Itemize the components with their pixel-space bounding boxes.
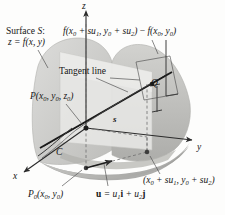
label-base-point: (x0 + su1, y0 + su2) — [143, 176, 215, 186]
label-point-p: P(x0, y0, z0) — [30, 92, 73, 102]
label-point-q: Q — [151, 79, 158, 89]
figure-canvas: Surface S: z = f(x, y) f(x0 + su1, y0 + … — [0, 0, 225, 215]
label-surface-title: Surface S: — [6, 27, 45, 37]
label-y-axis: y — [197, 143, 201, 153]
label-surface-equation: z = f(x, y) — [8, 38, 45, 48]
label-tangent-line: Tangent line — [59, 67, 106, 77]
label-curve-c: C — [56, 148, 62, 158]
label-distance-s: s — [113, 115, 117, 124]
point-p-marker — [84, 126, 89, 131]
base-point-marker — [145, 150, 150, 155]
label-point-p0: P0(x0, y0) — [28, 190, 63, 200]
label-x-axis: x — [13, 172, 17, 182]
label-difference-expression: f(x0 + su1, y0 + su2) − f(x0, y0) — [63, 27, 176, 37]
label-vector-u: u = u1i + u2j — [96, 190, 145, 200]
label-z-axis: z — [82, 2, 86, 12]
